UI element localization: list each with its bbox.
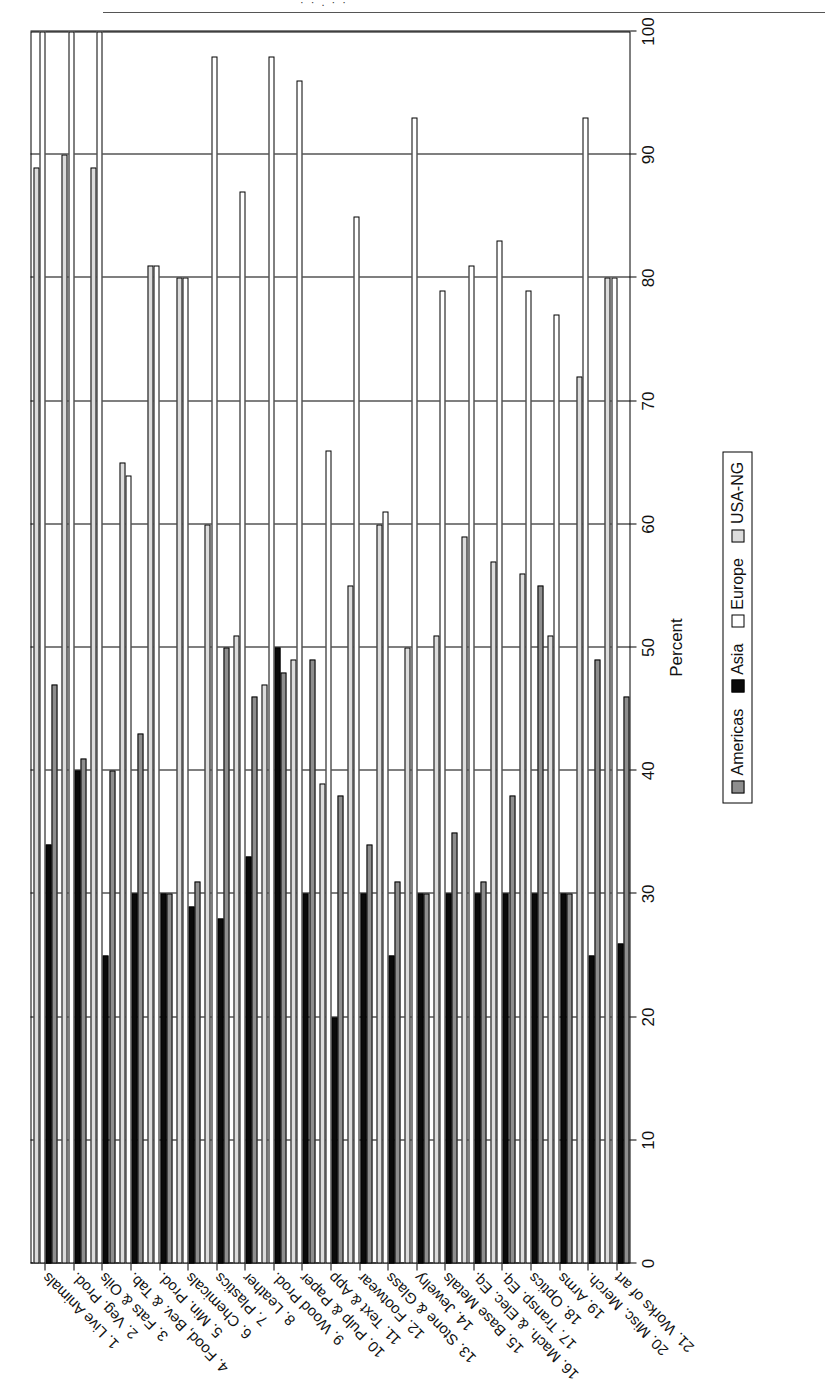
bar-americas (137, 733, 143, 1263)
category-tick (273, 1263, 274, 1270)
bar-americas (166, 893, 172, 1263)
category-tick (416, 1263, 417, 1270)
legend-label: USA-NG (728, 461, 746, 523)
bar-group: 14. Jewelry (401, 31, 430, 1263)
bar-group: 15. Base Metals (430, 31, 459, 1263)
bar-americas (537, 585, 543, 1263)
bar-americas (394, 881, 400, 1263)
bar-group: 12. Footwear (344, 31, 373, 1263)
category-tick (587, 1263, 588, 1270)
bar-americas (509, 795, 515, 1263)
category-tick (301, 1263, 302, 1270)
tick-label: 20 (638, 1007, 658, 1026)
bar-europe (325, 450, 331, 1263)
bar-group: 21. Works of art (601, 31, 630, 1263)
category-tick (244, 1263, 245, 1270)
category-tick (530, 1263, 531, 1270)
tick-mark (630, 1139, 636, 1140)
bar-americas (280, 672, 286, 1263)
bar-group: 7. Plastics (201, 31, 230, 1263)
bar-europe (553, 314, 559, 1263)
tick-mark (630, 1016, 636, 1017)
bar-usang (547, 635, 553, 1263)
legend-item-americas: Americas (728, 708, 746, 793)
bar-group: 16. Mach. & Elec. Eq. (459, 31, 488, 1263)
bar-group: 11. Text & App (316, 31, 345, 1263)
legend-swatch-americas (731, 780, 744, 793)
tick-label: 80 (638, 268, 658, 287)
bar-usang (90, 167, 96, 1263)
bar-europe (382, 511, 388, 1263)
plot-area: 1. Live Animals2. Veg. Prod.3. Fats & Oi… (30, 31, 630, 1263)
bar-asia (360, 893, 366, 1263)
bar-group: 4. Food, Bev. & Tab. (116, 31, 145, 1263)
tick-mark (630, 1262, 636, 1263)
bar-asia (445, 893, 451, 1263)
bar-group: 20. Misc. Merch. (573, 31, 602, 1263)
bar-asia (502, 893, 508, 1263)
bar-usang (261, 684, 267, 1263)
bar-usang (433, 635, 439, 1263)
bar-asia (474, 893, 480, 1263)
bar-europe (153, 265, 159, 1263)
tick-mark (630, 769, 636, 770)
chart-legend: AmericasAsiaEuropeUSA-NG (722, 451, 752, 803)
bar-usang (61, 154, 67, 1263)
bar-americas (480, 881, 486, 1263)
bar-americas (623, 696, 629, 1263)
bar-usang (404, 647, 410, 1263)
legend-item-europe: Europe (728, 558, 746, 628)
bar-asia (388, 955, 394, 1263)
bar-europe (411, 117, 417, 1263)
category-tick (101, 1263, 102, 1270)
bar-usang (119, 462, 125, 1263)
bar-asia (531, 893, 537, 1263)
bar-group: 10. Pulp & Paper (287, 31, 316, 1263)
tick-label: 40 (638, 761, 658, 780)
category-tick (73, 1263, 74, 1270)
tick-label: 30 (638, 884, 658, 903)
bar-europe (525, 290, 531, 1263)
tick-label: 50 (638, 638, 658, 657)
bar-asia (102, 955, 108, 1263)
bar-asia (160, 893, 166, 1263)
bar-americas (80, 758, 86, 1263)
bar-americas (51, 684, 57, 1263)
legend-swatch-asia (731, 679, 744, 692)
legend-item-usang: USA-NG (728, 461, 746, 541)
bar-americas (194, 881, 200, 1263)
bar-usang (490, 561, 496, 1263)
category-tick (159, 1263, 160, 1270)
bar-europe (582, 117, 588, 1263)
bar-europe (211, 56, 217, 1263)
tick-label: 100 (638, 17, 658, 45)
bar-americas (337, 795, 343, 1263)
bar-americas (223, 647, 229, 1263)
bar-americas (366, 844, 372, 1263)
bar-asia (274, 647, 280, 1263)
bar-americas (423, 893, 429, 1263)
bar-asia (331, 1017, 337, 1263)
legend-swatch-usang (731, 529, 744, 542)
bar-usang (519, 573, 525, 1263)
category-tick (216, 1263, 217, 1270)
bar-americas (566, 893, 572, 1263)
tick-mark (630, 646, 636, 647)
bar-asia (417, 893, 423, 1263)
bar-europe (496, 240, 502, 1263)
bar-asia (617, 943, 623, 1263)
category-tick (387, 1263, 388, 1270)
bar-usang (33, 167, 39, 1263)
bar-europe (353, 216, 359, 1263)
tick-mark (630, 892, 636, 893)
legend-label: Europe (728, 558, 746, 610)
bar-usang (576, 376, 582, 1263)
bar-group: 13. Stone & Glass (373, 31, 402, 1263)
bar-usang (347, 585, 353, 1263)
bar-group: 3. Fats & Oils (87, 31, 116, 1263)
tick-label: 60 (638, 514, 658, 533)
tick-label: 10 (638, 1130, 658, 1149)
bar-group: 18. Optics (516, 31, 545, 1263)
category-tick (330, 1263, 331, 1270)
